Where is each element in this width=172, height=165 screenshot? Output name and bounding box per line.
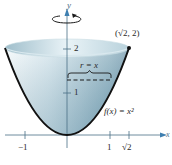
x-tick-label-sqrt2: √2	[122, 143, 131, 152]
x-tick-label-1: 1	[107, 143, 112, 152]
y-tick-label-1: 1	[74, 88, 79, 97]
x-tick-label-neg1: −1	[18, 143, 28, 152]
point-marker	[127, 46, 131, 50]
y-axis-label: y	[67, 1, 71, 10]
x-axis-label: x	[166, 131, 170, 139]
radius-label: r = x	[80, 61, 98, 70]
paraboloid-diagram	[0, 0, 172, 165]
y-tick-label-2: 2	[74, 44, 79, 53]
x-axis	[5, 131, 167, 139]
function-label: f(x) = x²	[104, 107, 134, 116]
point-label: (√2, 2)	[115, 29, 139, 38]
